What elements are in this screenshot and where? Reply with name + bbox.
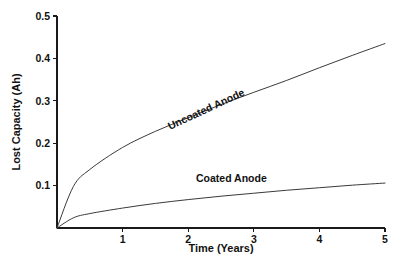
y-axis-title: Lost Capacity (Ah) <box>10 73 22 171</box>
x-tick-label: 1 <box>120 233 126 245</box>
y-tick-label: 0.3 <box>35 95 50 107</box>
y-tick-label: 0.2 <box>35 137 50 149</box>
y-tick-label: 0.5 <box>35 10 50 22</box>
x-tick-label: 4 <box>316 233 322 245</box>
x-axis-ticks <box>123 228 385 232</box>
x-tick-labels: 12345 <box>120 233 388 245</box>
y-tick-label: 0.4 <box>35 52 50 64</box>
y-tick-label: 0.1 <box>35 179 50 191</box>
x-tick-label: 5 <box>382 233 388 245</box>
line-chart-canvas: 0.10.20.30.40.5 12345 Lost Capacity (Ah)… <box>0 0 401 267</box>
y-tick-labels: 0.10.20.30.40.5 <box>35 10 50 192</box>
series-line-coated-anode <box>57 183 385 228</box>
x-axis-title: Time (Years) <box>188 242 254 254</box>
series-label-uncoated-anode: Uncoated Anode <box>166 86 246 132</box>
series-line-uncoated-anode <box>57 44 385 228</box>
series-label-coated-anode: Coated Anode <box>196 172 267 184</box>
chart-figure: 0.10.20.30.40.5 12345 Lost Capacity (Ah)… <box>0 0 401 267</box>
